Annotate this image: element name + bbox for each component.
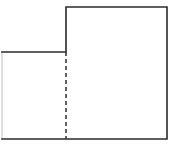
l-shape-outline xyxy=(2,7,167,139)
l-shape-svg xyxy=(0,0,173,147)
figure-canvas: L-shaped (step) polygon outlined in dark… xyxy=(0,0,173,147)
